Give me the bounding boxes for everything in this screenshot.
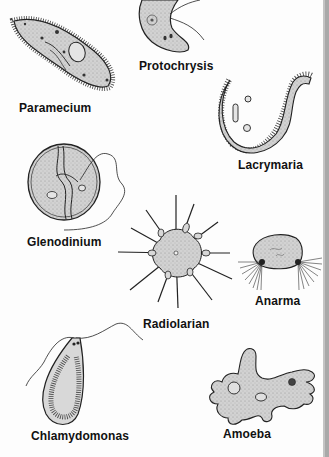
label-amoeba: Amoeba (223, 427, 271, 441)
amoeba-body (210, 349, 315, 425)
protochrysis-plastid (163, 36, 166, 40)
paramecium-illustration (12, 18, 113, 89)
chlamydomonas-eyespot (72, 342, 75, 345)
chlamydomonas-illustration (26, 323, 143, 424)
lacrymaria-macronucleus (233, 104, 238, 122)
radiolarian-vesicle (181, 222, 190, 233)
paramecium-granule (24, 23, 26, 25)
paramecium-granule (63, 51, 66, 54)
paramecium-body (14, 19, 111, 87)
radiolarian-vesicle (165, 271, 171, 279)
amoeba-food-vacuole (289, 379, 296, 386)
radiolarian-illustration (118, 195, 232, 308)
lacrymaria-vacuole (245, 96, 251, 102)
paramecium-granule (55, 30, 59, 34)
amoeba-vacuole (228, 382, 240, 394)
page-edge-highlight (323, 0, 325, 457)
label-chlamydomonas: Chlamydomonas (31, 429, 129, 443)
label-paramecium: Paramecium (19, 101, 91, 115)
glenodinium-vacuole (79, 185, 86, 191)
label-protochrysis: Protochrysis (139, 59, 214, 73)
paramecium-granule (40, 36, 43, 39)
lacrymaria-vacuole (244, 125, 251, 132)
chlamydomonas-flagellum (76, 323, 143, 340)
amoeba-nucleus (256, 393, 267, 401)
protochrysis-body (139, 0, 188, 52)
radiolarian-vesicle (194, 233, 202, 239)
label-radiolarian: Radiolarian (143, 317, 209, 331)
paramecium-granule (82, 73, 85, 76)
radiolarian-vesicle (158, 229, 164, 237)
radiolarian-vesicle (187, 268, 193, 276)
anarma-illustration (238, 235, 322, 290)
radiolarian-vesicle (148, 250, 156, 256)
protochrysis-plastid (169, 34, 172, 38)
glenodinium-vacuole (47, 192, 57, 199)
anarma-cirri-right (298, 258, 322, 290)
label-lacrymaria: Lacrymaria (238, 158, 303, 172)
paramecium-granule (106, 79, 109, 82)
protochrysis-illustration (139, 0, 204, 52)
label-anarma: Anarma (255, 294, 300, 308)
lacrymaria-illustration (219, 74, 312, 153)
anarma-cirri-left (238, 262, 262, 290)
amoeba-illustration (210, 349, 315, 425)
glenodinium-illustration (28, 144, 125, 230)
label-glenodinium: Glenodinium (27, 235, 101, 249)
radiolarian-vesicle (202, 250, 210, 256)
